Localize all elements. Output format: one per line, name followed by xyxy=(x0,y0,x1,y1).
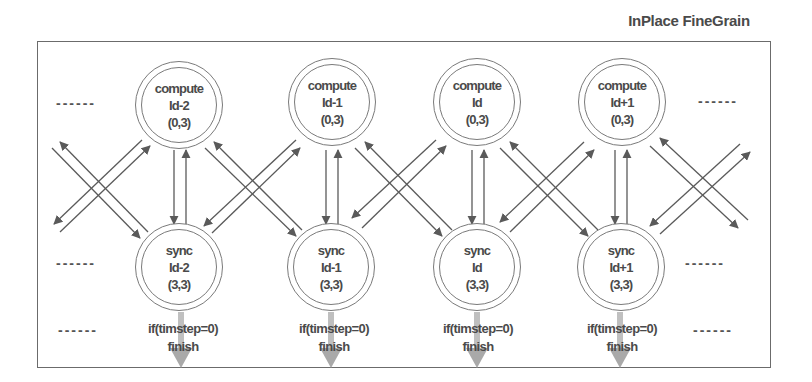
node-id: Id-1 xyxy=(322,94,342,111)
node-kind: sync xyxy=(464,242,490,259)
node-kind: compute xyxy=(155,80,204,97)
cross-edges-right xyxy=(650,138,750,234)
node-coord: (3,3) xyxy=(610,276,633,293)
node-coord: (3,3) xyxy=(168,276,191,293)
finish-condition-id: if(timstep=0) finish xyxy=(408,320,548,356)
node-kind: sync xyxy=(166,242,192,259)
node-kind: compute xyxy=(598,77,647,94)
vertical-edges-id+1 xyxy=(615,150,627,224)
vertical-edges-id xyxy=(472,150,484,224)
compute-node-id+1: compute Id+1 (0,3) xyxy=(578,58,666,146)
node-id: Id xyxy=(472,94,482,111)
vertical-edges-id-1 xyxy=(326,150,338,224)
compute-node-id-2: compute Id-2 (0,3) xyxy=(135,61,223,149)
ellipsis-finish-left: ------ xyxy=(58,322,98,338)
action-text: finish xyxy=(408,338,548,356)
ellipsis-compute-right: ------ xyxy=(698,93,738,109)
node-coord: (0,3) xyxy=(168,114,191,131)
sync-node-id: sync Id (3,3) xyxy=(433,223,521,311)
condition-text: if(timstep=0) xyxy=(408,320,548,338)
compute-node-id-1: compute Id-1 (0,3) xyxy=(288,58,376,146)
node-kind: sync xyxy=(318,242,344,259)
action-text: finish xyxy=(552,338,692,356)
node-coord: (0,3) xyxy=(611,111,634,128)
node-coord: (0,3) xyxy=(321,111,344,128)
node-id: Id-1 xyxy=(321,259,341,276)
finish-condition-id-1: if(timstep=0) finish xyxy=(264,320,404,356)
finish-condition-id+1: if(timstep=0) finish xyxy=(552,320,692,356)
node-id: Id+1 xyxy=(609,259,632,276)
sync-node-id+1: sync Id+1 (3,3) xyxy=(577,223,665,311)
node-coord: (3,3) xyxy=(320,276,343,293)
ellipsis-sync-right: ------ xyxy=(685,255,725,271)
ellipsis-finish-right: ------ xyxy=(693,322,733,338)
ellipsis-sync-left: ------ xyxy=(56,255,96,271)
action-text: finish xyxy=(113,338,253,356)
node-kind: compute xyxy=(308,77,357,94)
node-id: Id-2 xyxy=(169,97,189,114)
cross-edges-id-id+1 xyxy=(500,142,598,236)
vertical-edges-id-2 xyxy=(174,150,186,224)
condition-text: if(timstep=0) xyxy=(264,320,404,338)
condition-text: if(timstep=0) xyxy=(113,320,253,338)
cross-edges-id-1-id xyxy=(352,140,452,236)
node-id: Id-2 xyxy=(169,259,189,276)
node-id: Id+1 xyxy=(610,94,633,111)
ellipsis-compute-left: ------ xyxy=(56,95,96,111)
cross-edges-id-2-id-1 xyxy=(204,140,302,236)
node-kind: compute xyxy=(453,77,502,94)
sync-node-id-1: sync Id-1 (3,3) xyxy=(287,223,375,311)
compute-node-id: compute Id (0,3) xyxy=(433,58,521,146)
node-kind: sync xyxy=(608,242,634,259)
node-id: Id xyxy=(472,259,482,276)
sync-node-id-2: sync Id-2 (3,3) xyxy=(135,223,223,311)
action-text: finish xyxy=(264,338,404,356)
cross-edges-left xyxy=(52,140,150,238)
node-coord: (3,3) xyxy=(466,276,489,293)
finish-condition-id-2: if(timstep=0) finish xyxy=(113,320,253,356)
node-coord: (0,3) xyxy=(466,111,489,128)
condition-text: if(timstep=0) xyxy=(552,320,692,338)
